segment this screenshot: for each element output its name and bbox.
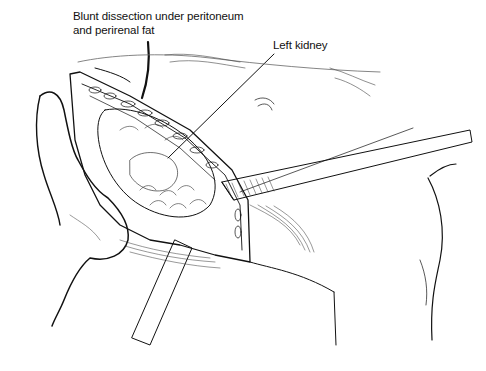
label-line: Blunt dissection under peritoneum — [73, 9, 244, 23]
surgical-drawing — [0, 0, 486, 371]
label-line: and perirenal fat — [73, 23, 244, 37]
leader-line-dissection — [142, 42, 149, 98]
illustration: Blunt dissection under peritoneum and pe… — [0, 0, 486, 371]
label-left-kidney: Left kidney — [273, 38, 328, 52]
label-blunt-dissection: Blunt dissection under peritoneum and pe… — [73, 9, 244, 37]
label-line: Left kidney — [273, 38, 328, 52]
